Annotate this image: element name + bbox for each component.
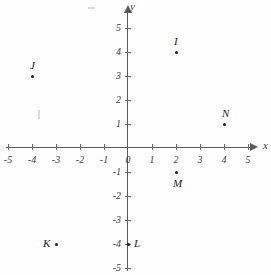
y-axis-tick-label: 1	[103, 119, 121, 129]
point-label-l: L	[134, 238, 140, 249]
y-axis-tick-label: -5	[103, 263, 121, 273]
x-axis-arrow-icon	[250, 143, 258, 151]
y-axis-tick-label: 5	[103, 23, 121, 33]
point-label-n: N	[222, 108, 229, 119]
x-axis-tick-label: 3	[191, 155, 209, 165]
x-axis-tick	[248, 144, 249, 150]
x-axis-tick	[56, 144, 57, 150]
y-axis-tick	[125, 124, 131, 125]
scan-speckle	[88, 7, 95, 9]
x-axis-tick	[152, 144, 153, 150]
x-axis-tick-label: 1	[143, 155, 161, 165]
x-axis	[6, 147, 254, 148]
y-axis-tick-label: -1	[103, 167, 121, 177]
x-axis-tick-label: -1	[95, 155, 113, 165]
scan-speckle	[38, 110, 40, 119]
point-label-k: K	[43, 238, 50, 249]
plotted-point-k	[55, 243, 58, 246]
x-axis-tick-label: 0	[119, 155, 137, 165]
y-axis	[127, 8, 128, 271]
y-axis-tick	[125, 220, 131, 221]
y-axis-tick-label: 2	[103, 95, 121, 105]
x-axis-tick-label: -4	[23, 155, 41, 165]
y-axis-tick	[125, 196, 131, 197]
coordinate-plane: x y -5-4-3-2-101234554321-1-2-3-4-5 IJNM…	[0, 0, 271, 275]
point-label-j: J	[30, 60, 35, 71]
x-axis-label: x	[263, 140, 268, 151]
x-axis-tick	[200, 144, 201, 150]
x-axis-tick	[80, 144, 81, 150]
y-axis-tick-label: 3	[103, 71, 121, 81]
y-axis-tick-label: 4	[103, 47, 121, 57]
plotted-point-m	[175, 171, 178, 174]
x-axis-tick	[104, 144, 105, 150]
y-axis-label: y	[130, 1, 135, 12]
x-axis-tick-label: -5	[0, 155, 17, 165]
x-axis-tick-label: 2	[167, 155, 185, 165]
y-axis-tick	[125, 28, 131, 29]
y-axis-tick	[125, 172, 131, 173]
y-axis-tick-label: -3	[103, 215, 121, 225]
x-axis-tick-label: 5	[239, 155, 257, 165]
y-axis-tick	[125, 268, 131, 269]
y-axis-tick-label: -4	[103, 239, 121, 249]
point-label-i: I	[174, 36, 178, 47]
y-axis-tick-label: -2	[103, 191, 121, 201]
x-axis-tick	[176, 144, 177, 150]
plotted-point-j	[31, 75, 34, 78]
x-axis-tick-label: -3	[47, 155, 65, 165]
plotted-point-i	[175, 51, 178, 54]
y-axis-tick	[125, 100, 131, 101]
x-axis-tick	[224, 144, 225, 150]
x-axis-tick	[32, 144, 33, 150]
y-axis-tick	[125, 52, 131, 53]
y-axis-tick	[125, 76, 131, 77]
point-label-m: M	[173, 178, 182, 189]
x-axis-tick-label: 4	[215, 155, 233, 165]
plotted-point-l	[127, 243, 130, 246]
x-axis-tick	[8, 144, 9, 150]
x-axis-tick-label: -2	[71, 155, 89, 165]
plotted-point-n	[223, 123, 226, 126]
